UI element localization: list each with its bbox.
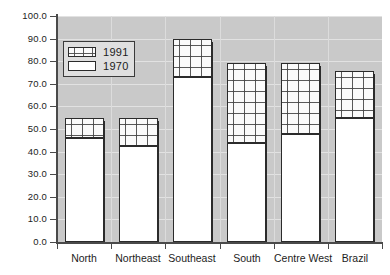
y-tick-mark [50, 16, 57, 17]
bar-south [227, 16, 266, 242]
bar-segment-1991 [173, 39, 212, 77]
y-tick-label: 20.0 [28, 191, 47, 202]
y-tick-label: 80.0 [28, 55, 47, 66]
bar-southeast [173, 16, 212, 242]
y-tick-label: 30.0 [28, 168, 47, 179]
y-tick-mark [50, 39, 57, 40]
gridline-vertical [328, 16, 329, 242]
y-tick-mark [50, 61, 57, 62]
y-tick-label: 40.0 [28, 146, 47, 157]
y-tick-mark [50, 106, 57, 107]
x-tick-label-southeast: Southeast [165, 252, 219, 264]
x-tick-mark [328, 244, 329, 249]
legend-item-1970: 1970 [68, 59, 129, 73]
legend-label-1991: 1991 [103, 46, 129, 58]
x-tick-mark [165, 244, 166, 249]
x-tick-mark [57, 244, 58, 249]
y-tick-label: 60.0 [28, 100, 47, 111]
y-tick-mark [50, 219, 57, 220]
y-tick-mark [50, 84, 57, 85]
x-tick-mark [111, 244, 112, 249]
y-tick-mark [50, 174, 57, 175]
y-tick-mark [50, 129, 57, 130]
bar-segment-1970 [227, 143, 266, 242]
x-tick-label-south: South [220, 252, 274, 264]
legend-swatch-1991-icon [68, 47, 96, 57]
bar-segment-1991 [65, 118, 104, 138]
chart-legend: 1991 1970 [63, 41, 135, 77]
y-tick-mark [50, 152, 57, 153]
bar-segment-1970 [173, 77, 212, 242]
x-tick-label-northeast: Northeast [111, 252, 165, 264]
bar-segment-1991 [281, 63, 320, 133]
x-tick-label-north: North [57, 252, 111, 264]
y-tick-label: 70.0 [28, 78, 47, 89]
stacked-bar-chart: 0.010.020.030.040.050.060.070.080.090.01… [0, 0, 390, 275]
gridline-vertical [165, 16, 166, 242]
x-tick-mark [274, 244, 275, 249]
y-tick-label: 100.0 [22, 10, 47, 21]
y-tick-mark [50, 242, 57, 243]
x-tick-mark [220, 244, 221, 249]
y-tick-label: 10.0 [28, 213, 47, 224]
legend-swatch-1970-icon [68, 61, 96, 71]
x-tick-mark [382, 244, 383, 249]
y-tick-label: 0.0 [33, 236, 47, 247]
y-tick-mark [50, 197, 57, 198]
x-tick-label-brazil: Brazil [328, 252, 382, 264]
bar-segment-1970 [335, 118, 374, 242]
x-tick-label-centre-west: Centre West [274, 252, 328, 264]
bar-segment-1991 [335, 71, 374, 117]
bar-segment-1991 [119, 118, 158, 146]
bar-segment-1991 [227, 63, 266, 142]
bar-segment-1970 [119, 146, 158, 242]
gridline-vertical [274, 16, 275, 242]
y-tick-label: 90.0 [28, 33, 47, 44]
bar-brazil [335, 16, 374, 242]
bar-centre-west [281, 16, 320, 242]
y-tick-label: 50.0 [28, 123, 47, 134]
bar-segment-1970 [65, 138, 104, 242]
bar-segment-1970 [281, 134, 320, 242]
legend-label-1970: 1970 [103, 60, 129, 72]
legend-item-1991: 1991 [68, 45, 129, 59]
gridline-vertical [220, 16, 221, 242]
